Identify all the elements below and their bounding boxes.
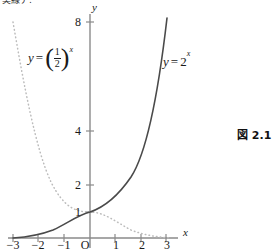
x-tick-label-minus-1: −1 — [54, 238, 74, 251]
figure-page: 実線ア. — [0, 0, 278, 251]
y-axis-label: y — [92, 1, 97, 13]
curve-label-two-equals: = — [169, 54, 180, 69]
curve-label-half-equals: = — [34, 50, 45, 65]
x-axis-label: x — [183, 226, 188, 238]
x-tick-label-1: 1 — [109, 238, 123, 251]
curve-label-two-exponent: x — [187, 49, 191, 58]
y-tick-label-2: 2 — [72, 178, 84, 193]
curve-label-two-y: y — [163, 54, 169, 69]
graph-canvas — [0, 0, 200, 251]
y-tick-label-1: 1 — [72, 205, 84, 220]
curve-label-two-power: y=2x — [163, 54, 190, 70]
fraction-numerator: 1 — [54, 47, 61, 58]
curve-label-two-base: 2 — [180, 54, 187, 69]
y-tick-label-8: 8 — [72, 15, 84, 30]
fraction-denominator: 2 — [54, 58, 61, 70]
x-tick-label-2: 2 — [135, 238, 149, 251]
origin-label: O — [78, 238, 92, 251]
fraction-one-half: 12 — [54, 47, 61, 69]
left-paren: ( — [45, 43, 54, 73]
figure-caption: 図 2.1 — [237, 126, 271, 142]
curve-label-half-exponent: x — [69, 45, 73, 54]
exponential-function-graph — [0, 0, 200, 251]
x-tick-label-minus-2: −2 — [28, 238, 48, 251]
x-tick-label-3: 3 — [160, 238, 174, 251]
curve-label-half-y: y — [28, 50, 34, 65]
y-tick-label-4: 4 — [72, 124, 84, 139]
curve-label-half-power: y=(12)x — [28, 44, 73, 74]
x-tick-label-minus-3: −3 — [3, 238, 23, 251]
